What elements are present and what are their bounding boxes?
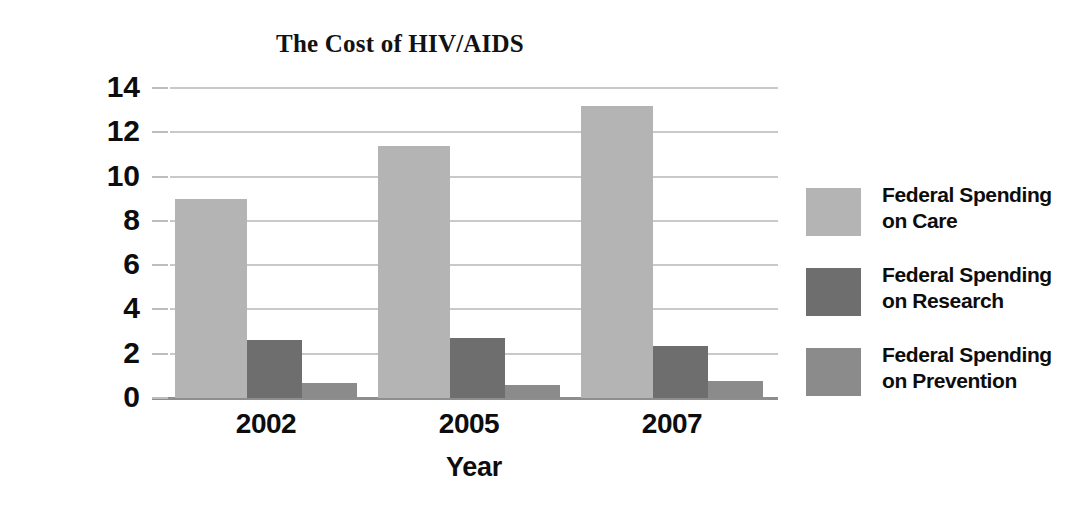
- y-axis-tick-mark: [152, 87, 168, 89]
- bar-group-2005: [378, 88, 560, 398]
- bar-2005-care[interactable]: [378, 146, 450, 398]
- x-axis-tick-label-2007: 2007: [561, 408, 783, 440]
- legend-label-line1: Federal Spending: [882, 342, 1090, 368]
- bar-group-2002: [175, 88, 357, 398]
- y-axis-tick-label: 12: [78, 116, 140, 146]
- legend-swatch-research: [806, 268, 861, 316]
- y-axis-tick-label: 2: [78, 338, 140, 368]
- y-axis-tick-mark: [152, 264, 168, 266]
- chart-title: The Cost of HIV/AIDS: [0, 30, 800, 58]
- y-axis-tick-mark: [152, 353, 168, 355]
- x-axis-title: Year: [170, 452, 778, 483]
- y-axis-tick-mark: [152, 308, 168, 310]
- plot-area: [170, 88, 778, 398]
- legend-label-line1: Federal Spending: [882, 182, 1090, 208]
- legend-label-line2: on Prevention: [882, 368, 1090, 394]
- y-axis-tick-mark: [152, 176, 168, 178]
- legend-label-prevention: Federal Spendingon Prevention: [882, 342, 1090, 393]
- legend-label-research: Federal Spendingon Research: [882, 262, 1090, 313]
- chart-container: The Cost of HIV/AIDS Billions of Dollars…: [0, 0, 1090, 525]
- bar-2002-research[interactable]: [247, 340, 302, 398]
- legend-label-line1: Federal Spending: [882, 262, 1090, 288]
- y-axis-tick-mark: [152, 220, 168, 222]
- bar-2005-research[interactable]: [450, 338, 505, 398]
- x-axis-tick-label-2002: 2002: [155, 408, 377, 440]
- bar-2005-prevention[interactable]: [505, 385, 560, 398]
- y-axis-tick-label: 10: [78, 161, 140, 191]
- y-axis-tick-label: 14: [78, 72, 140, 102]
- legend-swatch-prevention: [806, 348, 861, 396]
- y-axis-tick-label: 6: [78, 249, 140, 279]
- legend-label-line2: on Research: [882, 288, 1090, 314]
- y-axis-tick-label: 4: [78, 293, 140, 323]
- bar-2007-prevention[interactable]: [708, 381, 763, 398]
- x-axis-tick-label-2005: 2005: [358, 408, 580, 440]
- legend-label-line2: on Care: [882, 208, 1090, 234]
- bar-2002-care[interactable]: [175, 199, 247, 398]
- bar-groups: [170, 88, 778, 398]
- bar-2002-prevention[interactable]: [302, 383, 357, 399]
- legend-label-care: Federal Spendingon Care: [882, 182, 1090, 233]
- bar-2007-care[interactable]: [581, 106, 653, 398]
- y-axis-tick-mark: [152, 397, 168, 399]
- bar-group-2007: [581, 88, 763, 398]
- legend-swatch-care: [806, 188, 861, 236]
- y-axis-tick-mark: [152, 131, 168, 133]
- y-axis-tick-label: 8: [78, 205, 140, 235]
- bar-2007-research[interactable]: [653, 346, 708, 398]
- y-axis-tick-label: 0: [78, 382, 140, 412]
